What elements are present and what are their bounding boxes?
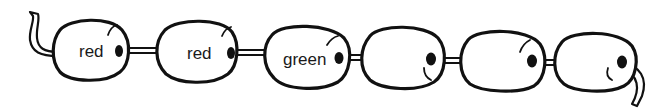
bead-3-label: green <box>283 51 326 68</box>
bead-2-label: red <box>187 45 212 62</box>
bead-6 <box>555 33 636 91</box>
bead-string-diagram: red red green <box>0 0 668 112</box>
bead-5 <box>461 31 545 91</box>
bead-4 <box>362 27 445 88</box>
bead-1-label: red <box>79 43 104 60</box>
